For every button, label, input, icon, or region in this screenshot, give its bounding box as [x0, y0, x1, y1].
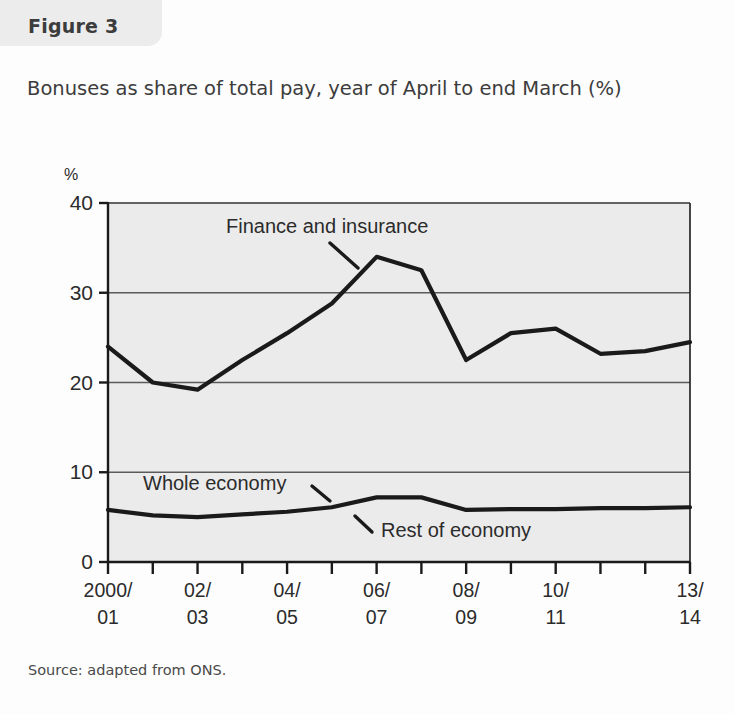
x-tick-label-line2-2: 03 [187, 606, 209, 628]
x-tick-label-line2-4: 05 [276, 606, 298, 628]
y-tick-label-10: 10 [70, 460, 93, 483]
x-tick-label-line2-6: 07 [366, 606, 388, 628]
annotation-whole-economy: Whole economy [143, 472, 286, 494]
x-tick-label-line1-6: 06/ [363, 579, 391, 601]
x-tick-label-line2-10: 11 [546, 606, 566, 628]
y-tick-label-20: 20 [70, 371, 93, 394]
x-tick-label-line1-10: 10/ [542, 579, 570, 601]
chart-area: 0102030402000/0102/0304/0506/0708/0910/1… [0, 0, 735, 715]
annotation-rest-of-economy: Rest of economy [381, 519, 531, 541]
x-tick-label-line1-2: 02/ [184, 579, 212, 601]
figure-page: Figure 3 Bonuses as share of total pay, … [0, 0, 735, 715]
line-chart: 0102030402000/0102/0304/0506/0708/0910/1… [0, 0, 735, 715]
y-tick-label-40: 40 [70, 191, 93, 214]
y-tick-label-30: 30 [70, 281, 93, 304]
annotation-finance-and-insurance: Finance and insurance [226, 215, 428, 237]
x-tick-label-line1-8: 08/ [453, 579, 481, 601]
x-tick-label-line2-0: 01 [97, 606, 119, 628]
x-tick-label-line2-13: 14 [679, 606, 701, 628]
x-tick-label-line1-4: 04/ [274, 579, 302, 601]
x-tick-label-line1-0: 2000/ [84, 579, 133, 601]
x-tick-label-line1-13: 13/ [676, 579, 704, 601]
y-tick-label-0: 0 [81, 550, 93, 573]
figure-source: Source: adapted from ONS. [28, 662, 226, 678]
x-tick-label-line2-8: 09 [455, 606, 477, 628]
